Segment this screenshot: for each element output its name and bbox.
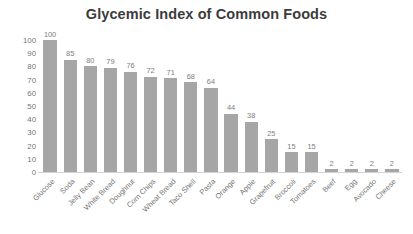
x-axis-tick-label: Beef [321, 177, 338, 194]
bar[interactable] [43, 40, 56, 172]
x-axis-baseline [38, 172, 402, 173]
bar-value-label: 44 [221, 103, 241, 112]
bar[interactable] [64, 60, 77, 172]
bar-slot: 100 [40, 40, 60, 172]
y-axis-tick-label: 30 [0, 128, 36, 137]
bar-slot: 2 [322, 40, 342, 172]
bar-value-label: 2 [322, 159, 342, 168]
bar-value-label: 2 [362, 159, 382, 168]
bar[interactable] [385, 169, 398, 172]
bar-chart: Glycemic Index of Common Foods 100908070… [0, 0, 413, 234]
bar-value-label: 64 [201, 77, 221, 86]
x-axis-label-slot: Cheese [382, 175, 402, 234]
bar-value-label: 85 [60, 49, 80, 58]
y-axis-tick-label: 20 [0, 141, 36, 150]
bar-value-label: 76 [120, 61, 140, 70]
y-axis-tick-label: 100 [0, 36, 36, 45]
bar-value-label: 2 [382, 159, 402, 168]
y-axis-tick-label: 60 [0, 88, 36, 97]
bar-value-label: 25 [261, 129, 281, 138]
y-axis-tick-label: 90 [0, 49, 36, 58]
bar[interactable] [325, 169, 338, 172]
bar-slot: 72 [141, 40, 161, 172]
y-axis-tick-label: 80 [0, 62, 36, 71]
bar[interactable] [204, 88, 217, 172]
bar[interactable] [224, 114, 237, 172]
x-axis-label-slot: Grapefruit [261, 175, 281, 234]
x-axis-label-slot: Broccoli [281, 175, 301, 234]
bar-slot: 2 [362, 40, 382, 172]
y-axis-tick-label: 0 [0, 168, 36, 177]
bar[interactable] [345, 169, 358, 172]
bar-value-label: 80 [80, 56, 100, 65]
bar-slot: 68 [181, 40, 201, 172]
bar[interactable] [124, 72, 137, 172]
x-axis-label-slot: Pasta [201, 175, 221, 234]
bar-value-label: 71 [161, 68, 181, 77]
bar-value-label: 68 [181, 72, 201, 81]
bar-value-label: 79 [100, 57, 120, 66]
y-axis: 1009080706050403020100 [0, 0, 36, 234]
bar-value-label: 38 [241, 111, 261, 120]
bar-slot: 2 [382, 40, 402, 172]
bar-slot: 38 [241, 40, 261, 172]
y-axis-tick-label: 10 [0, 154, 36, 163]
bar[interactable] [144, 77, 157, 172]
bar[interactable] [285, 152, 298, 172]
plot-area: 100858079767271686444382515152222 [40, 40, 402, 172]
bar-slot: 44 [221, 40, 241, 172]
bar[interactable] [305, 152, 318, 172]
x-axis-tick-label: Egg [342, 177, 358, 193]
bar-slot: 25 [261, 40, 281, 172]
bar[interactable] [184, 82, 197, 172]
y-axis-tick-label: 70 [0, 75, 36, 84]
bar-slot: 80 [80, 40, 100, 172]
bar[interactable] [245, 122, 258, 172]
x-axis-label-slot: Egg [342, 175, 362, 234]
x-axis-label-slot: Avocado [362, 175, 382, 234]
x-axis-label-slot: White Bread [100, 175, 120, 234]
bar-value-label: 100 [40, 30, 60, 39]
x-axis-label-slot: Tomatoes [301, 175, 321, 234]
bar-slot: 79 [100, 40, 120, 172]
bar-slot: 64 [201, 40, 221, 172]
bar[interactable] [164, 78, 177, 172]
bar-slot: 15 [301, 40, 321, 172]
y-axis-tick-label: 40 [0, 115, 36, 124]
bar-slot: 15 [281, 40, 301, 172]
bar-slot: 85 [60, 40, 80, 172]
bar[interactable] [365, 169, 378, 172]
x-axis-label-slot: Glucose [40, 175, 60, 234]
bar-value-label: 2 [342, 159, 362, 168]
chart-title: Glycemic Index of Common Foods [0, 6, 413, 22]
bar[interactable] [265, 139, 278, 172]
x-axis-label-slot: Orange [221, 175, 241, 234]
bar-slot: 76 [120, 40, 140, 172]
bar-value-label: 72 [141, 66, 161, 75]
bar-value-label: 15 [281, 142, 301, 151]
bar-slot: 71 [161, 40, 181, 172]
bar-slot: 2 [342, 40, 362, 172]
bar-value-label: 15 [301, 142, 321, 151]
x-axis-label-slot: Beef [322, 175, 342, 234]
y-axis-tick-label: 50 [0, 102, 36, 111]
bar[interactable] [104, 68, 117, 172]
x-axis: GlucoseSodaJelly BeanWhite BreadDoughnut… [40, 175, 402, 234]
bar[interactable] [84, 66, 97, 172]
x-axis-label-slot: Taco Shell [181, 175, 201, 234]
